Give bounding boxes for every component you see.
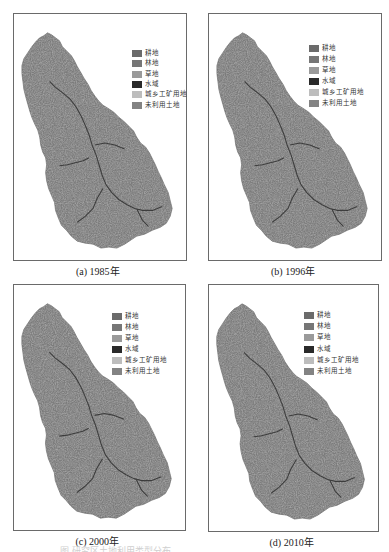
legend-swatch-icon <box>132 60 142 67</box>
legend-label: 林地 <box>317 322 331 331</box>
legend-item: 耕地 <box>309 44 336 53</box>
legend-swatch-icon <box>309 78 319 85</box>
basin-map <box>209 285 378 531</box>
legend-swatch-icon <box>309 100 319 107</box>
legend-item: 城乡工矿用地 <box>309 88 364 97</box>
land-use-texture-light <box>217 304 365 519</box>
panel-caption: (b) 1996年 <box>271 263 315 278</box>
legend-item: 草地 <box>112 334 139 343</box>
legend-item: 水域 <box>309 77 336 86</box>
legend-label: 草地 <box>145 70 159 79</box>
legend-swatch-icon <box>112 368 122 375</box>
legend-label: 草地 <box>322 66 336 75</box>
legend-item: 水域 <box>112 345 139 354</box>
legend-item: 城乡工矿用地 <box>304 356 359 365</box>
legend-item: 耕地 <box>304 311 331 320</box>
legend-swatch-icon <box>112 335 122 342</box>
legend-item: 未利用土地 <box>112 367 160 376</box>
legend-swatch-icon <box>304 346 314 353</box>
legend-item: 耕地 <box>112 312 139 321</box>
legend-label: 耕地 <box>317 311 331 320</box>
map-frame: 耕地林地草地水域城乡工矿用地未利用土地 <box>208 284 379 532</box>
map-frame: 耕地林地草地水域城乡工矿用地未利用土地 <box>208 13 382 261</box>
legend-label: 林地 <box>322 55 336 64</box>
legend-label: 耕地 <box>145 49 159 58</box>
legend-swatch-icon <box>304 334 314 341</box>
legend-item: 未利用土地 <box>304 367 352 376</box>
legend-swatch-icon <box>132 102 142 109</box>
basin-map <box>14 14 186 260</box>
legend-label: 未利用土地 <box>317 367 352 376</box>
legend-item: 城乡工矿用地 <box>112 356 167 365</box>
figure-caption-partial: 图 研究区土地利用类型分布 <box>60 545 340 552</box>
legend-swatch-icon <box>304 312 314 319</box>
legend-label: 水域 <box>317 345 331 354</box>
legend-item: 耕地 <box>132 49 159 58</box>
legend-item: 林地 <box>309 55 336 64</box>
land-use-texture-light <box>217 33 367 248</box>
legend-label: 城乡工矿用地 <box>322 88 364 97</box>
legend-item: 水域 <box>304 345 331 354</box>
basin-map <box>14 285 185 530</box>
legend-item: 未利用土地 <box>132 101 180 110</box>
legend-swatch-icon <box>112 313 122 320</box>
legend-item: 草地 <box>309 66 336 75</box>
legend-label: 城乡工矿用地 <box>145 90 187 99</box>
legend-item: 林地 <box>132 59 159 68</box>
legend-swatch-icon <box>309 67 319 74</box>
legend-swatch-icon <box>132 71 142 78</box>
legend-swatch-icon <box>304 323 314 330</box>
legend-swatch-icon <box>132 50 142 57</box>
panel-caption: (a) 1985年 <box>76 263 120 278</box>
legend-label: 草地 <box>125 334 139 343</box>
legend-label: 水域 <box>125 345 139 354</box>
legend-swatch-icon <box>132 91 142 98</box>
legend-item: 草地 <box>304 333 331 342</box>
legend-label: 耕地 <box>322 44 336 53</box>
legend-label: 水域 <box>322 77 336 86</box>
legend-swatch-icon <box>112 346 122 353</box>
legend-label: 未利用土地 <box>145 101 180 110</box>
legend-label: 城乡工矿用地 <box>317 356 359 365</box>
map-frame: 耕地林地草地水域城乡工矿用地未利用土地 <box>13 284 186 531</box>
legend-item: 草地 <box>132 70 159 79</box>
legend-swatch-icon <box>309 56 319 63</box>
legend-swatch-icon <box>304 368 314 375</box>
legend-label: 林地 <box>125 323 139 332</box>
legend-swatch-icon <box>112 357 122 364</box>
legend-item: 水域 <box>132 80 159 89</box>
legend-label: 未利用土地 <box>322 99 357 108</box>
legend-item: 未利用土地 <box>309 99 357 108</box>
land-use-texture-light <box>22 304 171 518</box>
legend-item: 林地 <box>112 323 139 332</box>
legend-label: 耕地 <box>125 312 139 321</box>
legend-item: 林地 <box>304 322 331 331</box>
legend-label: 草地 <box>317 333 331 342</box>
legend-swatch-icon <box>132 81 142 88</box>
legend-swatch-icon <box>112 324 122 331</box>
legend-label: 水域 <box>145 80 159 89</box>
legend-label: 林地 <box>145 59 159 68</box>
basin-map <box>209 14 381 260</box>
legend-swatch-icon <box>309 89 319 96</box>
legend-label: 城乡工矿用地 <box>125 356 167 365</box>
legend-label: 未利用土地 <box>125 367 160 376</box>
legend-swatch-icon <box>309 45 319 52</box>
legend-item: 城乡工矿用地 <box>132 90 187 99</box>
legend-swatch-icon <box>304 357 314 364</box>
map-frame: 耕地林地草地水域城乡工矿用地未利用土地 <box>13 13 187 261</box>
